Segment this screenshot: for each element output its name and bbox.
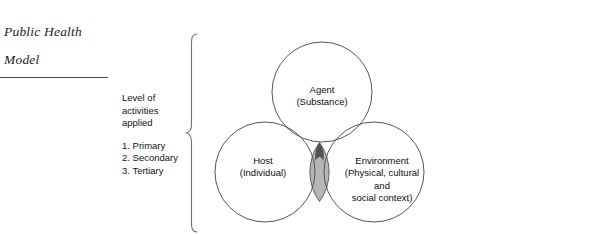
legend-heading-line-3: applied (122, 117, 192, 130)
legend-heading-line-2: activities (122, 105, 192, 118)
venn-diagram: Agent (Substance) Host (Individual) Envi… (205, 34, 435, 230)
grouping-brace-icon (184, 32, 200, 234)
legend-heading-line-1: Level of (122, 92, 192, 105)
venn-circles-svg (205, 34, 435, 230)
title-underline-rule (0, 77, 108, 78)
title-line-1: Public Health (4, 18, 124, 46)
title-line-2: Model (4, 46, 124, 74)
public-health-model-figure: Public Health Model Level of activities … (0, 0, 598, 234)
host-environment-intersection (310, 143, 329, 202)
legend-column: Level of activities applied 1. Primary 2… (122, 92, 192, 178)
circle-environment (324, 122, 424, 222)
figure-title: Public Health Model (4, 18, 124, 74)
legend-list-item-primary: 1. Primary (122, 140, 192, 153)
legend-list: 1. Primary 2. Secondary 3. Tertiary (122, 140, 192, 178)
legend-list-item-secondary: 2. Secondary (122, 152, 192, 165)
legend-list-item-tertiary: 3. Tertiary (122, 165, 192, 178)
